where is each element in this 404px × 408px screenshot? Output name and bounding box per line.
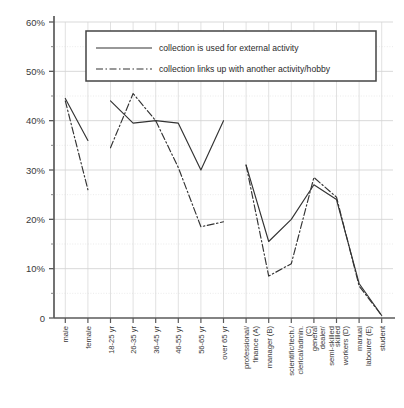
legend-label-1: collection is used for external activity (159, 43, 299, 53)
chart-legend: collection is used for external activity… (86, 31, 376, 81)
x-axis-tick-label: manager (B) (265, 326, 274, 369)
x-axis-tick-label: professional/finance (A) (242, 325, 260, 369)
svg-text:over 65 yr: over 65 yr (220, 326, 229, 360)
svg-text:36-45 yr: 36-45 yr (152, 326, 161, 354)
svg-text:labourer (E): labourer (E) (364, 326, 373, 367)
y-axis-tick-label: 30% (26, 165, 46, 176)
svg-text:26-35 yr: 26-35 yr (129, 326, 138, 354)
x-axis-tick-label: 46-55 yr (174, 326, 183, 354)
svg-text:46-55 yr: 46-55 yr (174, 326, 183, 354)
y-axis-tick-label: 50% (26, 66, 46, 77)
y-axis-tick-label: 20% (26, 214, 46, 225)
chart-container: 010%20%30%40%50%60% malefemale18-25 yr26… (0, 0, 404, 408)
x-axis-tick-label: 26-35 yr (129, 326, 138, 354)
svg-text:56-65 yr: 56-65 yr (197, 326, 206, 354)
x-axis-tick-label: 18-25 yr (107, 326, 116, 354)
x-axis-tick-label: 36-45 yr (152, 326, 161, 354)
svg-text:student: student (378, 325, 387, 351)
svg-text:workers (D): workers (D) (341, 326, 350, 367)
x-axis-tick-label: 56-65 yr (197, 326, 206, 354)
line-chart: 010%20%30%40%50%60% malefemale18-25 yr26… (0, 0, 404, 408)
y-axis-tick-label: 60% (26, 17, 46, 28)
svg-text:18-25 yr: 18-25 yr (107, 326, 116, 354)
svg-text:finance (A): finance (A) (251, 326, 260, 363)
x-axis-tick-label: over 65 yr (220, 326, 229, 360)
x-axis-tick-label: student (378, 325, 387, 351)
svg-text:male: male (61, 326, 70, 342)
x-axis-tick-label: female (84, 326, 93, 349)
svg-text:female: female (84, 326, 93, 349)
x-axis-tick-label: male (61, 326, 70, 342)
legend-label-2: collection links up with another activit… (159, 64, 331, 74)
svg-text:manager (B): manager (B) (265, 326, 274, 369)
y-axis-tick-label: 0 (40, 313, 45, 324)
y-axis-tick-label: 10% (26, 263, 46, 274)
y-axis-tick-label: 40% (26, 115, 46, 126)
